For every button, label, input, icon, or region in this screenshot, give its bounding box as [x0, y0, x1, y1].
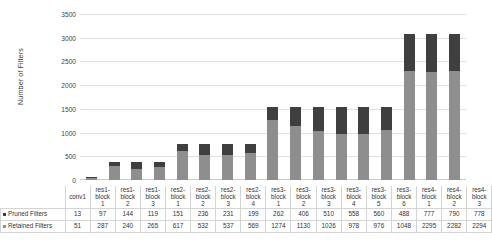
table-value-cell: 119: [140, 209, 165, 221]
table-category-cell: res1-block1: [90, 186, 115, 209]
bar-column: [284, 14, 307, 180]
table-value-cell: 13: [65, 209, 90, 221]
bar-segment-retained: [86, 178, 97, 180]
table-value-cell: 199: [241, 209, 266, 221]
table-category-cell: res4-block1: [417, 186, 442, 209]
bar-segment-retained: [267, 120, 278, 180]
table-category-cell: res3-block4: [341, 186, 366, 209]
table-category-cell: res3-block2: [291, 186, 316, 209]
table-value-cell: 144: [115, 209, 140, 221]
table-category-cell: conv1: [65, 186, 90, 209]
table-value-cell: 97: [90, 209, 115, 221]
table-category-cell: res4-block3: [467, 186, 492, 209]
bar-column: [352, 14, 375, 180]
table-category-cell: res2-block3: [216, 186, 241, 209]
bar-segment-pruned: [313, 107, 324, 131]
bar-stack: [290, 107, 301, 180]
bar-segment-retained: [222, 155, 233, 180]
bar-series-container: [80, 14, 466, 180]
category-line: 3: [216, 201, 240, 208]
bar-stack: [381, 107, 392, 180]
bar-stack: [336, 107, 347, 180]
category-line: 3: [467, 201, 491, 208]
bar-segment-retained: [290, 126, 301, 180]
table-category-header-row: conv1res1-block1res1-block2res1-block3re…: [1, 186, 492, 209]
chart-data-table: conv1res1-block1res1-block2res1-block3re…: [0, 186, 492, 233]
data-table: conv1res1-block1res1-block2res1-block3re…: [0, 186, 472, 243]
bar-segment-pruned: [131, 162, 142, 169]
y-tick-3000: 3000: [61, 34, 76, 41]
category-line: 3: [141, 201, 165, 208]
table-value-cell: 1130: [291, 221, 316, 233]
table-value-cell: 1026: [316, 221, 341, 233]
bar-stack: [131, 162, 142, 180]
bar-segment-retained: [245, 153, 256, 180]
table-category-cell: res2-block1: [165, 186, 190, 209]
bar-segment-pruned: [426, 34, 437, 71]
bar-segment-pruned: [336, 107, 347, 133]
bar-column: [398, 14, 421, 180]
table-category-cell: res2-block2: [191, 186, 216, 209]
table-value-cell: 617: [165, 221, 190, 233]
category-line: 5: [367, 201, 391, 208]
table-value-cell: 2295: [417, 221, 442, 233]
table-value-cell: 488: [391, 209, 416, 221]
bar-stack: [86, 177, 97, 180]
table-value-cell: 240: [115, 221, 140, 233]
legend-label-pruned: Pruned Filters: [8, 210, 47, 217]
bar-stack: [222, 144, 233, 180]
bar-segment-retained: [177, 151, 188, 180]
table-category-cell: res1-block2: [115, 186, 140, 209]
bar-stack: [267, 107, 278, 180]
y-tick-500: 500: [65, 153, 76, 160]
table-value-cell: 406: [291, 209, 316, 221]
category-line: 2: [442, 201, 466, 208]
table-value-cell: 287: [90, 221, 115, 233]
y-tick-2500: 2500: [61, 58, 76, 65]
y-axis-label: Number of Filters: [16, 27, 25, 127]
legend-item-retained: Retained Filters: [1, 221, 66, 233]
bar-column: [103, 14, 126, 180]
bar-column: [125, 14, 148, 180]
bar-segment-pruned: [449, 34, 460, 71]
table-category-cell: res3-block3: [316, 186, 341, 209]
category-line: 3: [317, 201, 341, 208]
table-value-cell: 2282: [442, 221, 467, 233]
bar-segment-retained: [426, 72, 437, 180]
bar-segment-retained: [449, 71, 460, 180]
bar-column: [443, 14, 466, 180]
category-line: 1: [266, 201, 290, 208]
y-axis-ticks: 0500100015002000250030003500: [46, 14, 76, 180]
y-tick-1000: 1000: [61, 129, 76, 136]
table-value-cell: 510: [316, 209, 341, 221]
bar-column: [148, 14, 171, 180]
category-line: 1: [91, 201, 115, 208]
table-value-cell: 265: [140, 221, 165, 233]
bar-column: [262, 14, 285, 180]
legend-swatch-pruned-icon: [3, 213, 6, 216]
plot-area: Number of Filters 0500100015002000250030…: [0, 0, 472, 186]
bar-stack: [404, 34, 415, 180]
bar-segment-retained: [381, 130, 392, 180]
category-line: 2: [116, 201, 140, 208]
bar-segment-pruned: [245, 144, 256, 153]
table-value-cell: 778: [467, 209, 492, 221]
bar-stack: [313, 107, 324, 180]
y-tick-2000: 2000: [61, 82, 76, 89]
y-tick-1500: 1500: [61, 105, 76, 112]
bar-stack: [109, 162, 120, 180]
table-category-cell: res3-block6: [391, 186, 416, 209]
bar-segment-retained: [109, 166, 120, 180]
table-category-cell: res2-block4: [241, 186, 266, 209]
bar-segment-retained: [336, 134, 347, 180]
table-value-cell: 537: [216, 221, 241, 233]
bar-column: [307, 14, 330, 180]
table-value-cell: 532: [191, 221, 216, 233]
table-value-cell: 777: [417, 209, 442, 221]
bar-segment-pruned: [199, 144, 210, 155]
bar-column: [330, 14, 353, 180]
table-value-cell: 569: [241, 221, 266, 233]
table-row-retained: Retained Filters 51287240265617532537569…: [1, 221, 492, 233]
table-value-cell: 51: [65, 221, 90, 233]
